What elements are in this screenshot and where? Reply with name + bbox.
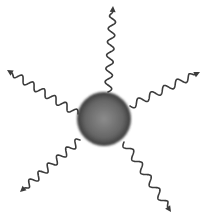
ray-upper-right bbox=[130, 74, 195, 108]
ray-upper-left bbox=[12, 73, 78, 114]
ray-lower-left bbox=[25, 139, 80, 188]
radiation-diagram bbox=[0, 0, 204, 215]
sphere bbox=[77, 92, 131, 146]
ray-top-arrowhead-icon bbox=[110, 6, 116, 12]
ray-lower-right bbox=[123, 142, 168, 207]
ray-lower-left-arrowhead-icon bbox=[20, 186, 27, 192]
ray-top bbox=[105, 12, 115, 92]
